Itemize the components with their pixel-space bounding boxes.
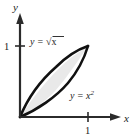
- label-sqrt-op: =: [37, 36, 43, 47]
- label-sqrt-x: y=√x: [29, 36, 64, 47]
- label-sq-lhs: y: [69, 90, 75, 101]
- plot-svg: 1 1 y x y=√x y=x2: [0, 0, 135, 138]
- shaded-region: [20, 46, 88, 117]
- x-axis-label: x: [123, 112, 129, 124]
- svg-text:y=x2: y=x2: [69, 89, 95, 101]
- label-sqrt-lhs: y: [29, 36, 35, 47]
- y-axis-arrow-icon: [16, 13, 24, 24]
- label-sq-op: =: [77, 90, 83, 101]
- svg-text:y=√x: y=√x: [29, 36, 57, 47]
- y-tick-label-1: 1: [4, 41, 9, 52]
- label-sq-rhs-exponent: 2: [91, 89, 95, 97]
- figure-container: 1 1 y x y=√x y=x2: [0, 0, 135, 138]
- label-sqrt-rhs: √x: [46, 36, 57, 47]
- x-tick-label-1: 1: [85, 125, 90, 136]
- y-axis-label: y: [12, 1, 18, 13]
- x-axis-arrow-icon: [110, 113, 121, 121]
- label-x-squared: y=x2: [69, 89, 95, 101]
